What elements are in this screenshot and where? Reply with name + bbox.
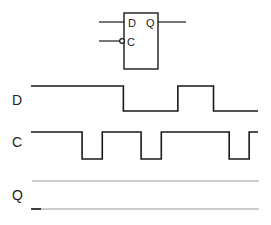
timing-diagram: D C Q D C Q xyxy=(0,0,271,225)
inversion-bubble-icon xyxy=(120,39,125,44)
signal-label-d: D xyxy=(12,92,22,108)
ff-d-label: D xyxy=(128,17,136,29)
waveform-d xyxy=(31,86,258,111)
ff-c-label: C xyxy=(127,36,135,48)
d-flip-flop-symbol: D C Q xyxy=(99,13,186,69)
signal-label-c: C xyxy=(12,134,22,150)
ff-q-label: Q xyxy=(146,17,155,29)
waveform-c xyxy=(31,132,258,159)
signal-label-q: Q xyxy=(12,187,23,203)
